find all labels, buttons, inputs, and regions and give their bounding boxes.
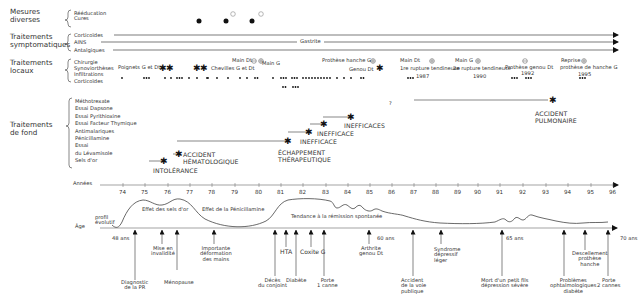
age-48: 48 ans — [112, 236, 129, 241]
event-hta: HTA — [280, 249, 292, 256]
label-1987: 1987 — [416, 74, 429, 79]
year-tick: 92 — [519, 190, 526, 196]
cure-dot — [250, 19, 255, 24]
event-line: Ménopause — [164, 280, 194, 285]
event-line: de la PR — [121, 285, 148, 290]
label-main-g: Main G — [262, 61, 280, 66]
outcome-line: PULMONAIRE — [535, 118, 577, 125]
cure-dot — [197, 19, 202, 24]
category-title-line: diverses — [10, 16, 40, 24]
label-main-dt: Main Dt — [232, 58, 252, 63]
year-tick: 87 — [410, 190, 417, 196]
year-tick: 86 — [388, 190, 395, 196]
item-methotrexate: Méthotrexate — [75, 98, 137, 105]
age-65: 65 ans — [506, 236, 523, 241]
label-reprise: Reprise — [561, 58, 580, 63]
event-deformation: Importante déformation des mains — [200, 246, 232, 262]
category-locaux-title: Traitements locaux — [10, 59, 52, 74]
event-mort-petit-fils: Mort d'un petit fils dépression sévère — [481, 278, 528, 289]
year-tick: 77 — [186, 190, 193, 196]
item-facteur-thymique: Essai Facteur Thymique — [75, 120, 137, 127]
event-line: 2 cannes — [597, 283, 620, 288]
brace-mesures — [65, 10, 71, 27]
item-levamisole: du Lévamisole — [75, 150, 137, 157]
label-prothese-hanche: Prothèse hanche G — [322, 58, 371, 63]
event-line: dépression sévère — [481, 283, 528, 288]
category-symptomatiques-items: Corticoïdes AINS Antalgiques — [74, 32, 105, 54]
event-accident: Accident de la voie publique — [401, 278, 426, 294]
category-title-line: de fond — [10, 129, 52, 137]
star-icon: ✱ — [347, 112, 355, 122]
star-icon: ✱ — [160, 156, 168, 166]
event-line: hanche — [572, 262, 608, 267]
year-tick: 84 — [344, 190, 351, 196]
year-tick: 75 — [141, 190, 148, 196]
category-fond-items: Méthotrexate Essai Dapsone Essai Pyrithi… — [75, 98, 137, 165]
label-main-g-2: Main G — [455, 58, 473, 63]
year-tick: 91 — [496, 190, 503, 196]
outcome-inefficace-2: INEFFICACE — [317, 131, 354, 138]
category-fond-title: Traitements de fond — [10, 121, 52, 136]
star-icon: ✱ — [175, 149, 183, 159]
category-mesures-title: Mesures diverses — [10, 8, 40, 23]
item-pyrithioxine: Essai Pyrithioxine — [75, 113, 137, 120]
age-60: 60 ans — [377, 236, 394, 241]
label-effet-sels-or: Effet des sels d'or — [142, 207, 188, 212]
item-dapsone: Essai Dapsone — [75, 105, 137, 112]
event-line: invalidité — [151, 251, 175, 256]
year-tick: 95 — [587, 190, 594, 196]
year-tick: 81 — [277, 190, 284, 196]
cure-dot — [224, 19, 229, 24]
item-ains: AINS — [74, 39, 105, 46]
event-line: 1 canne — [317, 283, 338, 288]
treatment-timeline-diagram: ✱ ✱ ✱ ✱ ✱ ✱ ✱ ✱ — [0, 0, 639, 308]
cures-markers — [197, 12, 264, 24]
event-diabete: Diabète — [286, 278, 306, 283]
brace-locaux — [65, 59, 71, 82]
item-antalgiques: Antalgiques — [74, 47, 105, 54]
years-axis — [100, 183, 618, 187]
label-poignets: Poignets G et Dt — [118, 65, 160, 70]
star-icon: ✱ — [376, 63, 384, 73]
axis-label-age: Âge — [75, 224, 85, 229]
event-line: diabète — [550, 289, 596, 294]
label-rupture-1: 1re rupture tendineuse — [400, 66, 460, 71]
year-tick: 79 — [231, 190, 238, 196]
label-reprise-prothese: prothèse de hanche G — [560, 65, 617, 70]
label-chevilles: Chevilles G et Dt — [211, 66, 255, 71]
item-sels-or: Sels d'or — [75, 157, 137, 164]
year-tick: 93 — [542, 190, 549, 196]
year-tick: 80 — [255, 190, 262, 196]
star-icon: ✱ — [549, 95, 557, 105]
item-antimalariques: Antimalariques — [75, 128, 137, 135]
infiltration-dots — [121, 77, 586, 79]
brace-fond — [66, 98, 72, 168]
outcome-line: HÉMATOLOGIQUE — [183, 159, 239, 166]
event-line: genou Dt — [359, 251, 383, 256]
label-main-dt-2: Main Dt — [400, 58, 420, 63]
label-1990: 1990 — [473, 74, 486, 79]
label-effet-penicillamine: Effet de la Pénicillamine — [202, 207, 264, 212]
label-1992: 1992 — [521, 71, 534, 76]
year-tick: 82 — [299, 190, 306, 196]
axis-label-annees: Années — [73, 181, 92, 186]
event-canne1: Porte 1 canne — [317, 278, 338, 289]
age-70: 70 ans — [620, 236, 637, 241]
reeducation-circle — [231, 12, 236, 17]
label-question: ? — [389, 101, 392, 106]
year-tick: 78 — [208, 190, 215, 196]
item-corticoides: Corticoïdes — [74, 32, 105, 39]
outcome-inefficaces: INEFFICACES — [344, 123, 385, 130]
event-line: des mains — [200, 257, 232, 262]
event-menopause: Ménopause — [164, 280, 194, 285]
outcome-echappement: ÉCHAPPEMENT THÉRAPEUTIQUE — [278, 150, 331, 163]
event-line: du conjoint — [258, 283, 287, 288]
event-descellement: Descellement prothèse hanche — [572, 251, 608, 267]
event-arthrite: Arthrite genou Dt — [359, 246, 383, 257]
event-line: léger — [434, 258, 460, 263]
event-syndrome: Syndrome dépressif léger — [434, 247, 460, 263]
category-symptomatiques-title: Traitements symptomatiques — [10, 33, 70, 48]
year-tick: 88 — [432, 190, 439, 196]
event-deces: Décès du conjoint — [258, 278, 287, 289]
star-icon: ✱ — [305, 127, 313, 137]
